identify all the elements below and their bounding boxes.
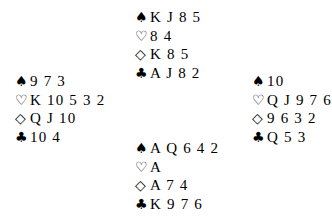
north-diamonds-row: ◇K 8 5 [135, 45, 201, 64]
west-diamonds-cards: Q J 10 [30, 110, 76, 126]
diamond-icon: ◇ [15, 109, 30, 128]
diamond-icon: ◇ [252, 109, 267, 128]
west-hearts-row: ♡K 10 5 3 2 [15, 91, 105, 110]
east-diamonds-row: ◇9 6 3 2 [252, 109, 332, 128]
south-clubs-row: ♣K 9 7 6 [135, 195, 219, 214]
west-spades-row: ♠9 7 3 [15, 72, 105, 91]
east-diamonds-cards: 9 6 3 2 [267, 110, 317, 126]
spade-icon: ♠ [135, 8, 150, 27]
north-hearts-row: ♡8 4 [135, 27, 201, 46]
west-clubs-cards: 10 4 [30, 129, 61, 145]
heart-icon: ♡ [135, 158, 150, 177]
diamond-icon: ◇ [135, 45, 150, 64]
east-hand: ♠10 ♡Q J 9 7 6 ◇9 6 3 2 ♣Q 5 3 [252, 72, 332, 146]
west-hearts-cards: K 10 5 3 2 [30, 92, 105, 108]
north-clubs-cards: A J 8 2 [150, 65, 201, 81]
south-hearts-row: ♡A [135, 158, 219, 177]
east-spades-cards: 10 [267, 73, 284, 89]
north-spades-cards: K J 8 5 [150, 9, 201, 25]
spade-icon: ♠ [135, 139, 150, 158]
south-diamonds-row: ◇A 7 4 [135, 176, 219, 195]
diamond-icon: ◇ [135, 176, 150, 195]
north-hand: ♠K J 8 5 ♡8 4 ◇K 8 5 ♣A J 8 2 [135, 8, 201, 82]
east-hearts-row: ♡Q J 9 7 6 [252, 91, 332, 110]
heart-icon: ♡ [252, 91, 267, 110]
club-icon: ♣ [252, 128, 267, 147]
spade-icon: ♠ [252, 72, 267, 91]
south-clubs-cards: K 9 7 6 [150, 196, 203, 212]
north-diamonds-cards: K 8 5 [150, 46, 189, 62]
west-diamonds-row: ◇Q J 10 [15, 109, 105, 128]
club-icon: ♣ [135, 195, 150, 214]
south-spades-row: ♠A Q 6 4 2 [135, 139, 219, 158]
west-clubs-row: ♣10 4 [15, 128, 105, 147]
south-hearts-cards: A [150, 159, 162, 175]
club-icon: ♣ [15, 128, 30, 147]
club-icon: ♣ [135, 64, 150, 83]
south-spades-cards: A Q 6 4 2 [150, 140, 219, 156]
west-hand: ♠9 7 3 ♡K 10 5 3 2 ◇Q J 10 ♣10 4 [15, 72, 105, 146]
west-spades-cards: 9 7 3 [30, 73, 66, 89]
east-clubs-cards: Q 5 3 [267, 129, 306, 145]
east-hearts-cards: Q J 9 7 6 [267, 92, 332, 108]
south-diamonds-cards: A 7 4 [150, 177, 189, 193]
east-clubs-row: ♣Q 5 3 [252, 128, 332, 147]
north-spades-row: ♠K J 8 5 [135, 8, 201, 27]
heart-icon: ♡ [15, 91, 30, 110]
north-hearts-cards: 8 4 [150, 28, 172, 44]
south-hand: ♠A Q 6 4 2 ♡A ◇A 7 4 ♣K 9 7 6 [135, 139, 219, 213]
spade-icon: ♠ [15, 72, 30, 91]
north-clubs-row: ♣A J 8 2 [135, 64, 201, 83]
east-spades-row: ♠10 [252, 72, 332, 91]
heart-icon: ♡ [135, 27, 150, 46]
